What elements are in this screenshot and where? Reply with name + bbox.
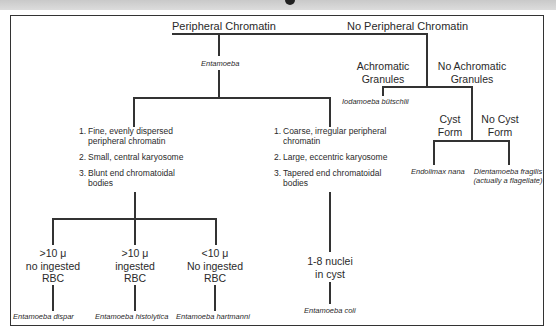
label-entamoeba: Entamoeba <box>201 59 239 68</box>
connector <box>218 33 220 56</box>
connector <box>52 285 54 311</box>
connector <box>471 86 473 140</box>
clipped-title-glyph <box>285 0 295 5</box>
species-iodamoeba-butschlii: Iodamoeba bütschlii <box>342 97 409 106</box>
connector <box>134 285 136 311</box>
criterion-large-rbc: >10 μ ingested RBC <box>104 247 166 285</box>
root-connector <box>172 33 427 35</box>
label-achromatic-granules: Achromatic Granules <box>350 60 416 85</box>
connector <box>382 86 473 88</box>
connector <box>133 97 135 127</box>
connector <box>52 218 54 245</box>
species-dientamoeba-fragilis: Dientamoeba fragilis (actually a flagell… <box>470 167 546 185</box>
connector <box>133 97 330 99</box>
clipped-header-strip <box>0 0 556 10</box>
connector <box>214 285 216 311</box>
connector <box>433 140 435 165</box>
connector <box>426 33 428 86</box>
connector <box>329 192 331 252</box>
species-entamoeba-hartmanni: Entamoeba hartmanni <box>176 312 250 321</box>
criteria-list-fine: 1.Fine, evenly dispersedperipheral chrom… <box>79 126 183 194</box>
connector <box>329 97 331 127</box>
criterion-large-no-rbc: >10 μ no ingested RBC <box>22 247 84 285</box>
species-entamoeba-histolytica: Entamoeba histolytica <box>95 312 168 321</box>
species-endolimax-nana: Endolimax nana <box>411 167 465 176</box>
connector <box>433 140 509 142</box>
connector <box>382 86 384 96</box>
criteria-list-coarse: 1.Coarse, irregular peripheralchromatin … <box>274 126 387 194</box>
label-no-achromatic-granules: No Achromatic Granules <box>430 60 514 85</box>
connector <box>218 70 220 98</box>
criterion-nuclei-in-cyst: 1-8 nuclei in cyst <box>297 255 363 280</box>
species-entamoeba-dispar: Entamoeba dispar <box>13 312 74 321</box>
connector <box>508 140 510 165</box>
species-entamoeba-coli: Entamoeba coli <box>304 306 356 315</box>
label-peripheral-chromatin: Peripheral Chromatin <box>172 20 276 32</box>
connector <box>215 218 217 245</box>
connector <box>52 218 216 220</box>
connector <box>329 282 331 304</box>
label-no-peripheral-chromatin: No Peripheral Chromatin <box>347 20 468 32</box>
label-no-cyst-form: No Cyst Form <box>475 113 525 138</box>
criterion-small-no-rbc: <10 μ No ingested RBC <box>182 247 248 285</box>
label-cyst-form: Cyst Form <box>432 113 468 138</box>
